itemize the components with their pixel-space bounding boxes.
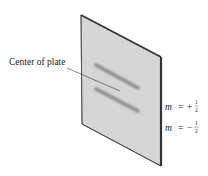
svg-text:=: = [178,123,183,133]
spin-down-label: m = − 1 2 [165,120,199,134]
svg-text:1: 1 [195,120,198,126]
svg-text:+: + [187,102,192,112]
svg-text:−: − [187,123,192,133]
svg-text:m: m [165,102,172,112]
svg-text:m: m [165,123,172,133]
spin-up-label: m = + 1 2 [165,99,199,113]
svg-text:=: = [178,102,183,112]
svg-text:1: 1 [195,99,198,105]
center-of-plate-label: Center of plate [9,57,65,67]
diagram-canvas: Center of plate m = + 1 2 m = − 1 2 [0,0,208,176]
detector-plate [81,15,161,166]
svg-text:2: 2 [195,107,198,113]
svg-text:2: 2 [195,128,198,134]
